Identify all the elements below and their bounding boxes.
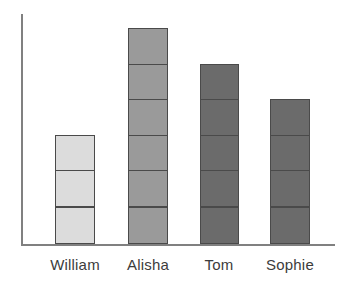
- bar-segment: [128, 170, 168, 207]
- y-axis-line: [21, 14, 23, 246]
- bar-segment: [128, 28, 168, 65]
- bar-segment: [128, 207, 168, 244]
- bar-segment: [128, 64, 168, 101]
- bar-tom[interactable]: [200, 59, 239, 244]
- x-label-alisha: Alisha: [113, 256, 183, 273]
- bar-william[interactable]: [55, 133, 95, 244]
- bar-segment: [200, 135, 239, 172]
- bar-chart: William Alisha Tom Sophie: [0, 0, 350, 287]
- plot-area: [0, 0, 350, 246]
- bar-sophie[interactable]: [270, 96, 310, 244]
- x-label-william: William: [40, 256, 110, 273]
- bar-segment: [200, 99, 239, 136]
- x-label-tom: Tom: [184, 256, 254, 273]
- bar-segment: [270, 135, 310, 172]
- bar-alisha[interactable]: [128, 22, 168, 244]
- bar-segment: [128, 135, 168, 172]
- bar-segment: [270, 170, 310, 207]
- bar-segment: [55, 170, 95, 207]
- bar-segment: [200, 207, 239, 244]
- bar-segment: [270, 207, 310, 244]
- x-axis-line: [21, 244, 335, 246]
- bar-segment: [55, 135, 95, 172]
- bar-segment: [200, 170, 239, 207]
- x-label-sophie: Sophie: [254, 256, 326, 273]
- bar-segment: [55, 207, 95, 244]
- bar-segment: [200, 64, 239, 101]
- bar-segment: [128, 99, 168, 136]
- bar-segment: [270, 99, 310, 136]
